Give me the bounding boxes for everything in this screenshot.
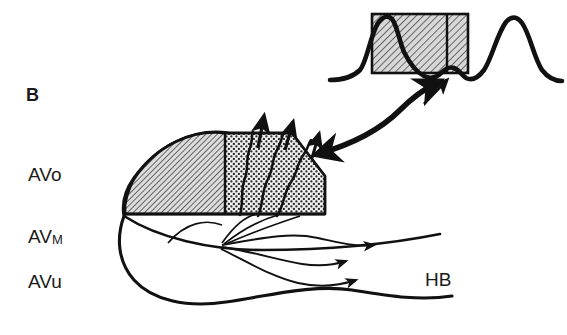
label-avo: AVo bbox=[28, 165, 61, 184]
avo-zone bbox=[123, 132, 325, 216]
inset-band-secondary bbox=[448, 14, 468, 73]
hb-output-arrows bbox=[221, 236, 374, 286]
inset-waveform bbox=[330, 14, 562, 104]
label-av-m-subscript: M bbox=[52, 232, 63, 247]
hb-arrow-1 bbox=[222, 236, 374, 246]
label-av-m-base: AV bbox=[28, 226, 52, 247]
avo-hatched-region bbox=[125, 132, 225, 214]
label-avu: AVu bbox=[28, 272, 62, 291]
panel-label: B bbox=[26, 86, 40, 104]
diagram-canvas bbox=[0, 0, 567, 335]
converging-fibres bbox=[168, 214, 300, 244]
label-hb: HB bbox=[425, 270, 451, 289]
avo-stippled-region bbox=[225, 133, 325, 214]
figure-panel-b: B AVo AVM AVu HB bbox=[0, 0, 567, 335]
hb-arrow-3 bbox=[221, 249, 356, 286]
av-m-contour bbox=[124, 216, 440, 250]
callout-arrow-to-inset bbox=[318, 82, 438, 154]
callout-arrow-shaft bbox=[318, 82, 438, 154]
label-av-m: AVM bbox=[28, 227, 63, 246]
